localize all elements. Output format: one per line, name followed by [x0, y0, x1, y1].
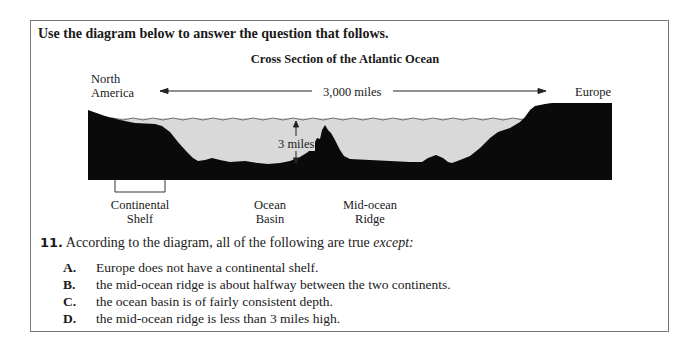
option-text: the ocean basin is of fairly consistent …	[96, 293, 333, 310]
label-line: Continental	[100, 198, 180, 212]
label-ocean-basin: Ocean Basin	[235, 198, 305, 226]
label-line: Shelf	[100, 212, 180, 226]
shelf-bracket	[115, 180, 165, 192]
label-line: Basin	[235, 212, 305, 226]
option-b[interactable]: B. the mid-ocean ridge is about halfway …	[63, 276, 451, 293]
distance-arrow	[160, 89, 546, 94]
option-text: Europe does not have a continental shelf…	[96, 259, 318, 276]
option-letter: B.	[63, 276, 96, 293]
question-stem: 11. According to the diagram, all of the…	[40, 235, 414, 251]
option-letter: A.	[63, 259, 96, 276]
option-letter: C.	[63, 293, 96, 310]
label-line: Ocean	[235, 198, 305, 212]
option-a[interactable]: A. Europe does not have a continental sh…	[63, 259, 451, 276]
answer-options: A. Europe does not have a continental sh…	[63, 259, 451, 327]
question-emphasis: except:	[373, 235, 413, 250]
question-number: 11.	[40, 235, 63, 250]
option-letter: D.	[63, 310, 96, 327]
question-text: According to the diagram, all of the fol…	[66, 235, 374, 250]
label-continental-shelf: Continental Shelf	[100, 198, 180, 226]
label-depth: 3 miles	[277, 137, 315, 151]
label-line: Mid-ocean	[330, 198, 410, 212]
option-c[interactable]: C. the ocean basin is of fairly consiste…	[63, 293, 451, 310]
option-text: the mid-ocean ridge is about halfway bet…	[96, 276, 451, 293]
label-line: Ridge	[330, 212, 410, 226]
label-mid-ocean-ridge: Mid-ocean Ridge	[330, 198, 410, 226]
option-text: the mid-ocean ridge is less than 3 miles…	[96, 310, 340, 327]
option-d[interactable]: D. the mid-ocean ridge is less than 3 mi…	[63, 310, 451, 327]
